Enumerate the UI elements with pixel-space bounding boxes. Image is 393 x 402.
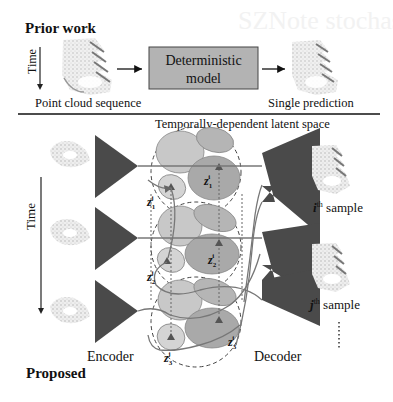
model-label-line2: model — [186, 71, 221, 86]
encoder-triangle-2 — [95, 207, 138, 270]
latent-label-z3-j: z3j — [163, 350, 173, 367]
sample-j-image — [312, 243, 350, 292]
proposed-time-arrow-head-icon — [38, 308, 44, 314]
proposed-section: Temporally-dependent latent space Time — [23, 117, 363, 381]
encoder-triangle-1 — [95, 135, 138, 198]
prior-work-heading: Prior work — [25, 20, 97, 36]
latent-group-1 — [151, 123, 241, 217]
sample-i-image — [312, 145, 350, 194]
latent-group-2 — [151, 199, 241, 292]
encoder-label: Encoder — [87, 349, 134, 364]
model-label-line1: Deterministic — [165, 53, 241, 68]
latent-label-z2-j: z2j — [146, 269, 156, 286]
single-prediction-label: Single prediction — [268, 96, 354, 110]
encoder-triangle-3 — [95, 280, 138, 343]
decoder-label: Decoder — [254, 349, 302, 364]
decoder-triangle-1 — [262, 128, 320, 235]
sample-i-label: ith sample — [313, 200, 363, 215]
input-frame-2-image — [50, 219, 90, 245]
single-prediction-image — [292, 40, 338, 95]
proposed-time-label: Time — [23, 203, 38, 230]
input-frame-1-image — [50, 141, 90, 167]
proposed-heading: Proposed — [26, 365, 86, 381]
diagram-canvas: SZNote stochastic Sequential P Prior wor… — [0, 0, 393, 402]
time-label: Time — [25, 49, 39, 74]
time-arrow-head-icon — [37, 84, 43, 90]
point-cloud-sequence-label: Point cloud sequence — [35, 96, 142, 110]
input-frame-3-image — [50, 297, 90, 323]
prior-work-section: Prior work Time Deterministic model — [25, 20, 354, 110]
latent-label-z1-j: z1j — [146, 194, 156, 211]
latent-space-title: Temporally-dependent latent space — [155, 117, 330, 131]
input-point-cloud-image — [62, 38, 112, 95]
